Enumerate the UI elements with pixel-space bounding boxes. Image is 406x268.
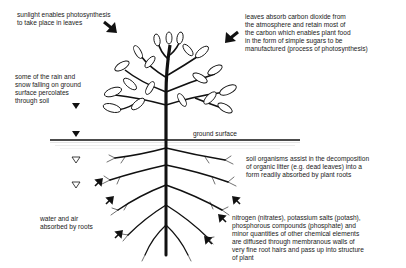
label-soil-organisms: soil organisms assist in the decompositi… (246, 155, 369, 179)
arrow-down-left-icon (225, 32, 238, 43)
label-rain: some of the rain and snow falling on gro… (15, 73, 81, 105)
label-leaves-co2: leaves absorb carbon dioxide from the at… (245, 13, 368, 53)
label-ground-surface: ground surface (193, 130, 237, 138)
arrow-up-right-icon (95, 179, 122, 238)
roots (102, 140, 236, 261)
label-sunlight: sunlight enables photosynthesis to take … (17, 11, 110, 27)
label-water-air: water and air absorbed by roots (40, 215, 93, 231)
diagram: sunlight enables photosynthesis to take … (0, 0, 406, 268)
soil-texture (50, 142, 300, 149)
label-nutrients: nitrogen (nitrates), potassium salts (po… (232, 214, 364, 263)
